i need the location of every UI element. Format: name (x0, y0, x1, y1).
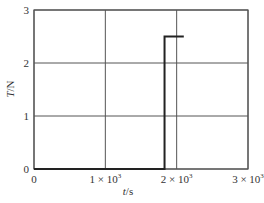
y-axis-label: T/N (4, 80, 16, 97)
x-tick-label: 0 (31, 173, 37, 185)
y-tick-label: 0 (24, 163, 30, 175)
x-tick-label: 1 × 103 (89, 172, 121, 185)
y-tick-label: 2 (24, 57, 30, 69)
x-tick-labels: 01 × 1032 × 1033 × 103 (31, 172, 264, 185)
series-line (34, 37, 184, 170)
y-tick-label: 1 (24, 110, 30, 122)
plot-frame (34, 10, 248, 169)
x-tick-label: 2 × 103 (161, 172, 193, 185)
y-tick-label: 3 (24, 4, 30, 16)
plot-area (34, 10, 248, 169)
step-response-chart: 0123 01 × 1032 × 1033 × 103 T/N t/s (0, 0, 264, 203)
y-tick-labels: 0123 (24, 4, 30, 175)
x-axis-label: t/s (123, 185, 133, 197)
x-tick-label: 3 × 103 (232, 172, 264, 185)
